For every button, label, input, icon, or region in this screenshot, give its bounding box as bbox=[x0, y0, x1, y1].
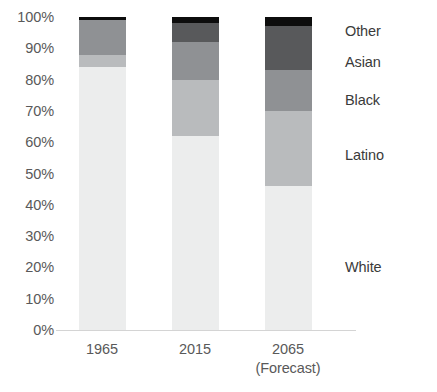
segment-asian-2065 bbox=[265, 26, 312, 70]
x-axis-label-2015-text: 2015 bbox=[179, 341, 211, 357]
segment-white-1965 bbox=[79, 67, 126, 330]
y-axis: 100% 90% 80% 70% 60% 50% 40% 30% 20% 10%… bbox=[0, 0, 54, 392]
segment-other-1965 bbox=[79, 17, 126, 20]
bar-2065[interactable] bbox=[265, 17, 312, 330]
segment-black-2065 bbox=[265, 70, 312, 111]
segment-latino-2065 bbox=[265, 111, 312, 186]
y-axis-tick-60: 60% bbox=[2, 134, 54, 150]
segment-black-2015 bbox=[172, 42, 219, 80]
stacked-bar-chart: 100% 90% 80% 70% 60% 50% 40% 30% 20% 10%… bbox=[0, 0, 437, 392]
y-axis-tick-90: 90% bbox=[2, 40, 54, 56]
segment-other-2065 bbox=[265, 17, 312, 26]
x-axis-label-2065-sublabel: (Forecast) bbox=[228, 360, 348, 376]
segment-white-2065 bbox=[265, 186, 312, 330]
y-axis-tick-0: 0% bbox=[2, 322, 54, 338]
x-axis-baseline bbox=[56, 330, 356, 331]
x-axis-label-2065-text: 2065 bbox=[272, 341, 304, 357]
plot-area bbox=[56, 17, 330, 330]
y-axis-tick-30: 30% bbox=[2, 228, 54, 244]
x-axis-label-2065: 2065 (Forecast) bbox=[228, 341, 348, 376]
bar-1965[interactable] bbox=[79, 17, 126, 330]
segment-white-2015 bbox=[172, 136, 219, 330]
legend-item-black: Black bbox=[345, 92, 380, 108]
y-axis-tick-20: 20% bbox=[2, 259, 54, 275]
segment-latino-1965 bbox=[79, 55, 126, 68]
segment-black-1965 bbox=[79, 20, 126, 54]
y-axis-tick-40: 40% bbox=[2, 197, 54, 213]
legend-item-latino: Latino bbox=[345, 147, 384, 163]
y-axis-tick-70: 70% bbox=[2, 103, 54, 119]
y-axis-tick-50: 50% bbox=[2, 166, 54, 182]
segment-latino-2015 bbox=[172, 80, 219, 136]
legend-item-asian: Asian bbox=[345, 54, 381, 70]
legend-item-white: White bbox=[345, 259, 382, 275]
y-axis-tick-80: 80% bbox=[2, 72, 54, 88]
y-axis-tick-100: 100% bbox=[2, 9, 54, 25]
bar-2015[interactable] bbox=[172, 17, 219, 330]
y-axis-tick-10: 10% bbox=[2, 291, 54, 307]
segment-asian-2015 bbox=[172, 23, 219, 42]
legend-item-other: Other bbox=[345, 23, 381, 39]
x-axis-label-1965-text: 1965 bbox=[86, 341, 118, 357]
segment-other-2015 bbox=[172, 17, 219, 23]
